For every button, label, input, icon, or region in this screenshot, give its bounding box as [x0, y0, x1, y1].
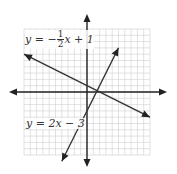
line-2-label: y = 2x − 3	[26, 118, 85, 129]
coordinate-graph	[0, 0, 177, 174]
line-1-label: y = −12x + 1	[25, 30, 94, 49]
y-axis-down-arrow-icon	[84, 159, 91, 167]
line-1-label-suffix: x + 1	[64, 33, 93, 46]
x-axis	[9, 89, 167, 96]
y-axis-up-arrow-icon	[84, 14, 91, 22]
line-1-label-prefix: y = −	[25, 33, 57, 46]
x-axis-right-arrow-icon	[159, 89, 167, 96]
x-axis-left-arrow-icon	[9, 89, 17, 96]
